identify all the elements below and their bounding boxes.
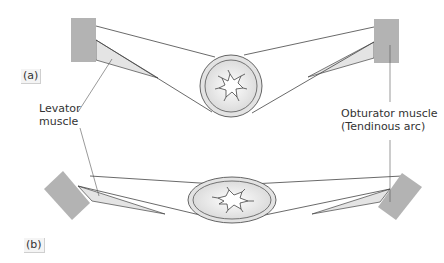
obturator-label-line1: Obturator muscle [341, 107, 438, 120]
obturator-block-left-b [44, 171, 90, 220]
diagram-a [71, 18, 399, 117]
levator-label: Levator muscle [39, 102, 81, 128]
levator-wedge-right-b [312, 189, 390, 214]
panel-tag-b: (b) [24, 238, 45, 253]
panel-tag-a: (a) [21, 69, 41, 84]
levator-wedge-left-b [78, 186, 165, 214]
levator-label-line2: muscle [39, 115, 81, 128]
diagram-b [44, 128, 422, 223]
levator-leader-a [78, 59, 112, 112]
obturator-label-line2: (Tendinous arc) [341, 120, 438, 133]
obturator-block-left [71, 18, 96, 62]
levator-wedge-right [308, 42, 374, 77]
levator-leader-b [80, 128, 99, 196]
obturator-label: Obturator muscle (Tendinous arc) [341, 107, 438, 133]
obturator-block-right [374, 19, 399, 63]
levator-label-line1: Levator [39, 102, 81, 115]
